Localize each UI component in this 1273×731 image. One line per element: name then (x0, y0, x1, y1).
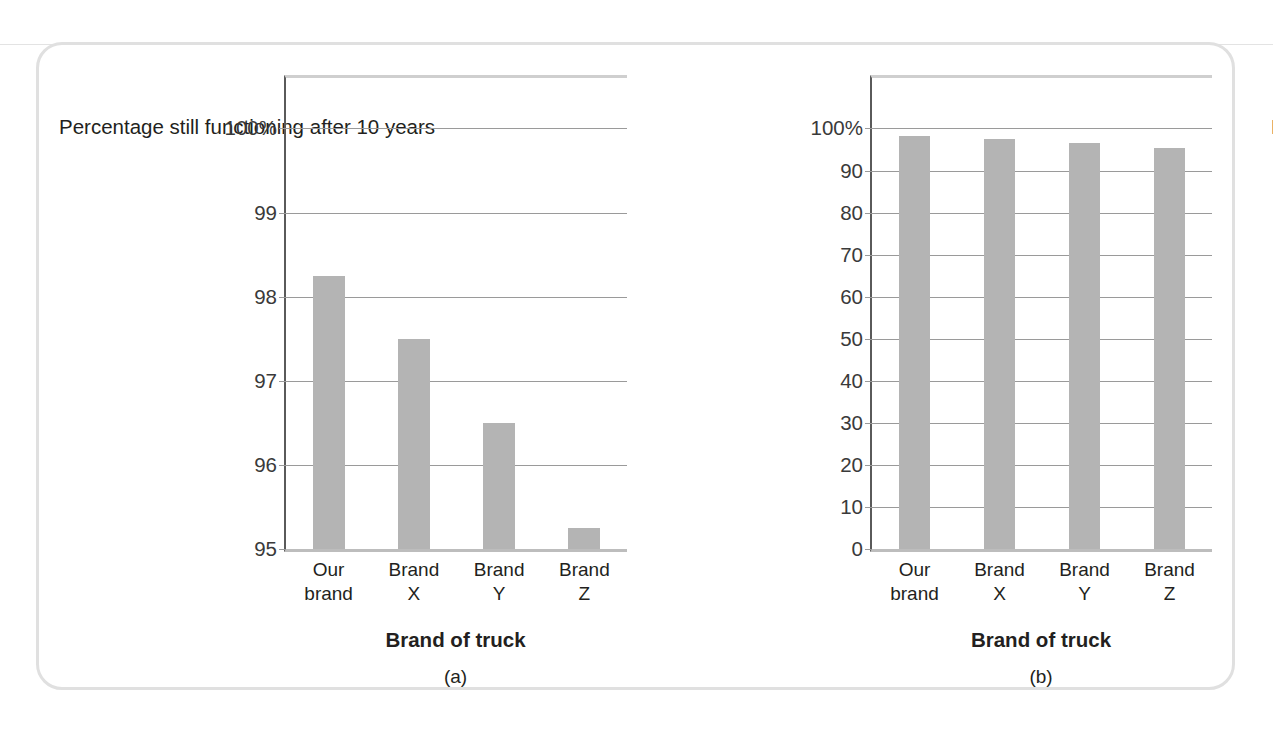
x-axis-tick-label-line: Brand (974, 558, 1025, 582)
y-axis-tick-mark (865, 507, 872, 508)
x-axis-tick-label: BrandZ (559, 558, 610, 606)
x-axis-tick-label: BrandX (389, 558, 440, 606)
x-axis-tick-label-line: Z (559, 582, 610, 606)
y-axis-tick-label: 97 (254, 369, 277, 393)
x-axis-title-a: Brand of truck (284, 628, 627, 652)
plot-area-a: 9596979899100%OurbrandBrandXBrandYBrandZ (284, 75, 627, 552)
x-axis-tick-label: Ourbrand (304, 558, 353, 606)
y-axis-tick-label: 100% (811, 116, 863, 140)
y-axis-tick-mark (279, 465, 286, 466)
y-axis-tick-label: 0 (852, 537, 863, 561)
y-axis-tick-mark (865, 381, 872, 382)
bar (1154, 148, 1186, 549)
y-axis-tick-mark (279, 128, 286, 129)
bar (984, 139, 1016, 549)
y-axis-tick-mark (865, 255, 872, 256)
x-axis-tick-label-line: X (389, 582, 440, 606)
gridline (286, 213, 627, 214)
x-axis-tick-label-line: brand (304, 582, 353, 606)
y-axis-tick-mark (279, 213, 286, 214)
bar (1069, 143, 1101, 549)
y-axis-tick-label: 96 (254, 453, 277, 477)
y-axis-tick-label: 90 (840, 159, 863, 183)
y-axis-tick-mark (865, 549, 872, 550)
x-axis-title-b: Brand of truck (870, 628, 1212, 652)
bar (483, 423, 515, 549)
x-axis-tick-label-line: Brand (1144, 558, 1195, 582)
y-axis-tick-mark (865, 339, 872, 340)
y-axis-tick-label: 30 (840, 411, 863, 435)
y-axis-tick-label: 98 (254, 285, 277, 309)
bar (568, 528, 600, 549)
y-axis-tick-label: 50 (840, 327, 863, 351)
y-axis-tick-label: 60 (840, 285, 863, 309)
figure-frame: Percentage still functioning after 10 ye… (36, 42, 1235, 690)
panel-caption-a: (a) (284, 666, 627, 688)
gridline (286, 128, 627, 129)
x-axis-tick-label: BrandY (474, 558, 525, 606)
y-axis-tick-label: 40 (840, 369, 863, 393)
bar (899, 136, 931, 549)
y-axis-tick-label: 20 (840, 453, 863, 477)
chart-panel-a: Percentage still functioning after 10 ye… (39, 45, 639, 693)
x-axis-tick-label: Ourbrand (890, 558, 939, 606)
x-axis-tick-label-line: X (974, 582, 1025, 606)
x-axis-tick-label: BrandZ (1144, 558, 1195, 606)
chart-panel-b: Percentage still functioning after 10 ye… (639, 45, 1238, 693)
x-axis-tick-label: BrandY (1059, 558, 1110, 606)
y-axis-tick-mark (865, 465, 872, 466)
x-axis-tick-label-line: Z (1144, 582, 1195, 606)
y-axis-tick-mark (865, 297, 872, 298)
y-axis-tick-label: 95 (254, 537, 277, 561)
y-axis-tick-mark (865, 128, 872, 129)
y-axis-tick-mark (279, 381, 286, 382)
y-axis-tick-label: 70 (840, 243, 863, 267)
x-axis-tick-label: BrandX (974, 558, 1025, 606)
x-axis-tick-label-line: Our (304, 558, 353, 582)
bar (398, 339, 430, 549)
x-axis-tick-label-line: Brand (474, 558, 525, 582)
x-axis-tick-label-line: Brand (389, 558, 440, 582)
panel-caption-b: (b) (870, 666, 1212, 688)
y-axis-tick-mark (279, 297, 286, 298)
x-axis-tick-label-line: Our (890, 558, 939, 582)
y-axis-tick-label: 100% (225, 116, 277, 140)
plot-area-b: 0102030405060708090100%OurbrandBrandXBra… (870, 75, 1212, 552)
y-axis-caption-a: Percentage still functioning after 10 ye… (59, 114, 244, 140)
y-axis-tick-mark (865, 171, 872, 172)
y-axis-tick-mark (865, 213, 872, 214)
y-axis-tick-label: 10 (840, 495, 863, 519)
x-axis-tick-label-line: Brand (1059, 558, 1110, 582)
y-axis-tick-mark (865, 423, 872, 424)
y-axis-tick-label: 80 (840, 201, 863, 225)
y-axis-tick-mark (279, 549, 286, 550)
x-axis-tick-label-line: Y (474, 582, 525, 606)
x-axis-tick-label-line: Brand (559, 558, 610, 582)
x-axis-tick-label-line: brand (890, 582, 939, 606)
bar (313, 276, 345, 549)
x-axis-tick-label-line: Y (1059, 582, 1110, 606)
y-axis-caption-line-1: Percentage (59, 115, 164, 138)
y-axis-tick-label: 99 (254, 201, 277, 225)
gridline (872, 128, 1212, 129)
